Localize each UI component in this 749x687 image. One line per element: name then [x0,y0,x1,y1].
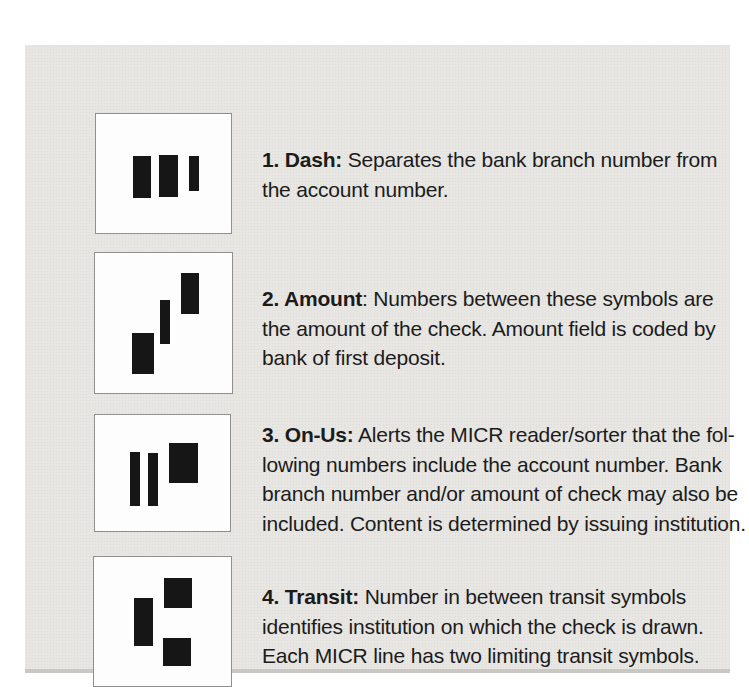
symbol-bar [181,273,199,314]
amount-description: 2. Amount: Numbers between these symbols… [262,284,749,373]
transit-symbol-box [93,556,232,687]
text-line: identifies institution on which the chec… [262,612,749,642]
symbol-bar [169,443,198,483]
symbol-bar [163,638,191,666]
text-fragment: : Numbers between these symbols are [362,287,713,310]
symbol-bar [134,598,153,646]
on-us-label: 3. On-Us: [262,423,354,446]
amount-symbol-box [94,252,233,394]
transit-description: 4. Transit: Number in between transit sy… [262,582,749,671]
dash-description: 1. Dash: Separates the bank branch numbe… [262,145,749,204]
transit-label: 4. Transit: [262,585,359,608]
text-line: 3. On-Us: Alerts the MICR reader/sorter … [262,420,749,450]
text-line: branch number and/or amount of check may… [262,479,749,509]
symbol-bar [160,300,170,344]
symbol-bar [148,453,158,506]
text-line: included. Content is determined by issui… [262,509,749,539]
text-line: 4. Transit: Number in between transit sy… [262,582,749,612]
text-fragment: Number in between transit symbols [359,585,686,608]
on-us-description: 3. On-Us: Alerts the MICR reader/sorter … [262,420,749,538]
symbol-bar [132,333,154,374]
on-us-symbol-box [94,414,231,532]
symbol-bar [189,156,199,191]
text-line: lowing numbers include the account numbe… [262,450,749,480]
scanned-page: { "colors": { "paper": "#ffffff", "panel… [0,0,749,687]
amount-label: 2. Amount [262,287,362,310]
symbol-bar [133,156,151,198]
text-line: Each MICR line has two limiting transit … [262,641,749,671]
text-line: the amount of the check. Amount field is… [262,314,749,344]
symbol-bar [164,578,192,608]
micr-legend-panel: 1. Dash: Separates the bank branch numbe… [25,45,730,673]
symbol-bar [130,452,140,506]
symbol-bar [159,155,178,197]
text-line: 2. Amount: Numbers between these symbols… [262,284,749,314]
text-line: the account number. [262,175,749,205]
dash-label: 1. Dash: [262,148,342,171]
text-line: 1. Dash: Separates the bank branch numbe… [262,145,749,175]
text-line: bank of first deposit. [262,343,749,373]
text-fragment: Alerts the MICR reader/sorter that the f… [354,423,735,446]
dash-symbol-box [95,113,232,234]
text-fragment: Separates the bank branch number from [342,148,717,171]
